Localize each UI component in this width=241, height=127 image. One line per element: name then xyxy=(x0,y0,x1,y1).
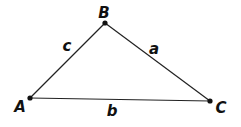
side-b-label: b xyxy=(107,102,118,120)
side-b-line xyxy=(30,98,210,101)
triangle-svg: A B C a b c xyxy=(0,0,241,127)
side-a-line xyxy=(105,23,210,101)
side-c-line xyxy=(30,23,105,98)
vertex-b-label: B xyxy=(98,4,109,22)
triangle-diagram: A B C a b c xyxy=(0,0,241,127)
vertex-a-label: A xyxy=(13,98,26,116)
side-c-label: c xyxy=(63,37,72,55)
vertex-c-label: C xyxy=(215,99,226,117)
vertex-c-point xyxy=(207,98,212,103)
vertex-a-point xyxy=(27,95,32,100)
side-a-label: a xyxy=(149,40,159,58)
